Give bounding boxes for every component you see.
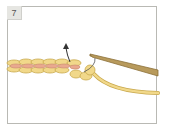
- chain-stitches: [7, 59, 95, 80]
- crochet-illustration: [0, 0, 170, 134]
- crochet-hook: [89, 54, 158, 76]
